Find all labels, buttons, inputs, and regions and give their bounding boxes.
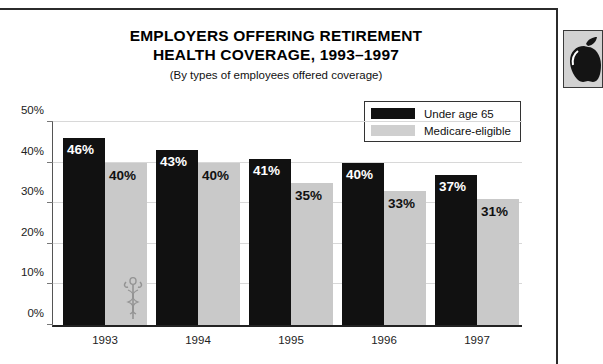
ytick-30 xyxy=(47,202,53,203)
xtick-label-1996: 1996 xyxy=(342,334,426,346)
xtick-label-1994: 1994 xyxy=(156,334,240,346)
xtick-label-1997: 1997 xyxy=(435,334,519,346)
ytick-40 xyxy=(47,162,53,163)
ytick-10 xyxy=(47,283,53,284)
bar-label-1994-medicare: 40% xyxy=(202,169,229,183)
ytick-label-10: 10% xyxy=(21,266,44,278)
chart-subtitle: (By types of employees offered coverage) xyxy=(0,67,552,83)
bar-label-1997-medicare: 31% xyxy=(481,205,508,219)
bar-label-1995-under-65: 41% xyxy=(253,164,280,178)
bar-group-1997: 37% 31% 1997 xyxy=(435,122,519,325)
chart-container: EMPLOYERS OFFERING RETIREMENT HEALTH COV… xyxy=(0,0,558,364)
bar-1996-under-65[interactable]: 40% xyxy=(342,163,384,325)
ytick-label-0: 0% xyxy=(27,307,44,319)
bar-1997-medicare[interactable]: 31% xyxy=(477,199,519,325)
ytick-50 xyxy=(47,121,53,122)
bar-label-1996-medicare: 33% xyxy=(388,197,415,211)
page-title-line-1: EMPLOYERS OFFERING RETIREMENT xyxy=(0,26,552,45)
ytick-label-40: 40% xyxy=(21,145,44,157)
bar-group-1996: 40% 33% 1996 xyxy=(342,122,426,325)
ytick-label-30: 30% xyxy=(21,185,44,197)
legend-item-under-65: Under age 65 xyxy=(371,106,514,121)
legend-swatch-dark-icon xyxy=(371,108,415,119)
chart-title-block: EMPLOYERS OFFERING RETIREMENT HEALTH COV… xyxy=(0,26,552,83)
ytick-0 xyxy=(47,324,53,325)
bar-label-1995-medicare: 35% xyxy=(295,189,322,203)
apple-icon xyxy=(563,30,603,88)
caduceus-icon xyxy=(122,276,144,325)
bar-group-1994: 43% 40% 1994 xyxy=(156,122,240,325)
ytick-label-50: 50% xyxy=(21,104,44,116)
bar-label-1994-under-65: 43% xyxy=(160,155,187,169)
bar-1995-medicare[interactable]: 35% xyxy=(291,183,333,325)
xtick-label-1993: 1993 xyxy=(63,334,147,346)
bar-label-1993-under-65: 46% xyxy=(67,143,94,157)
bar-1995-under-65[interactable]: 41% xyxy=(249,159,291,325)
bar-group-1995: 41% 35% 1995 xyxy=(249,122,333,325)
xtick-label-1995: 1995 xyxy=(249,334,333,346)
legend-label-under-65: Under age 65 xyxy=(424,108,494,120)
bar-1994-medicare[interactable]: 40% xyxy=(198,163,240,325)
bar-1996-medicare[interactable]: 33% xyxy=(384,191,426,325)
bar-label-1993-medicare: 40% xyxy=(109,169,136,183)
bar-1993-under-65[interactable]: 46% xyxy=(63,138,105,325)
page-title-line-2: HEALTH COVERAGE, 1993–1997 xyxy=(0,45,552,64)
ytick-label-20: 20% xyxy=(21,226,44,238)
bar-label-1997-under-65: 37% xyxy=(439,180,466,194)
bar-1997-under-65[interactable]: 37% xyxy=(435,175,477,325)
bar-label-1996-under-65: 40% xyxy=(346,168,373,182)
bar-1994-under-65[interactable]: 43% xyxy=(156,150,198,325)
ytick-20 xyxy=(47,243,53,244)
